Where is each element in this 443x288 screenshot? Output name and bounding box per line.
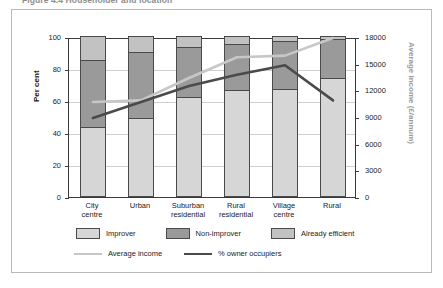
x-axis-label: Rural	[301, 202, 363, 211]
y-axis-right-tick-label: 0	[365, 194, 395, 202]
owner-occupiers-line-swatch	[184, 253, 212, 255]
average-income-line-swatch	[74, 253, 102, 255]
legend-item-label: Improver	[106, 229, 136, 238]
legend-item-label: Already efficient	[301, 229, 354, 238]
figure-caption-strip: Figure 4.4 Householder and location	[0, 0, 443, 7]
legend-item-label: Non-improver	[196, 229, 241, 238]
y-axis-right-tick-label: 9000	[365, 114, 395, 122]
y-axis-left-tick	[65, 198, 69, 199]
legend-row-lines: Average income% owner occupiers	[68, 246, 368, 261]
y-axis-left-tick-label: 0	[35, 194, 61, 202]
y-axis-right-tick-label: 12000	[365, 87, 395, 95]
chart-panel: Per cent Average income (£/annum) 020406…	[11, 9, 432, 273]
y-axis-right-title: Average income (£/annum)	[407, 42, 416, 144]
y-axis-right-tick-label: 15000	[365, 61, 395, 69]
legend-item[interactable]: Non-improver	[166, 228, 241, 239]
legend-item[interactable]: % owner occupiers	[184, 249, 281, 258]
legend-item[interactable]: Already efficient	[271, 228, 354, 239]
y-axis-left-tick-label: 100	[35, 34, 61, 42]
line-series-layer	[69, 38, 357, 198]
legend-row-bars: ImproverNon-improverAlready efficient	[68, 226, 368, 241]
figure-caption: Figure 4.4 Householder and location	[22, 0, 172, 5]
y-axis-left-tick-label: 20	[35, 162, 61, 170]
already-efficient-swatch	[271, 228, 295, 239]
y-axis-left-tick-label: 80	[35, 66, 61, 74]
plot-area: 020406080100 030006000900012000150001800…	[68, 38, 356, 198]
chart-screenshot: Figure 4.4 Householder and location Per …	[0, 0, 443, 288]
legend-item-label: % owner occupiers	[218, 249, 281, 258]
chart-legend: ImproverNon-improverAlready efficient Av…	[68, 226, 368, 261]
y-axis-right-tick-label: 18000	[365, 34, 395, 42]
line-series	[93, 65, 333, 118]
y-axis-left-tick-label: 40	[35, 130, 61, 138]
non-improver-swatch	[166, 228, 190, 239]
line-series	[93, 38, 333, 102]
legend-item[interactable]: Average income	[74, 249, 162, 258]
y-axis-right-tick-label: 6000	[365, 141, 395, 149]
y-axis-left-tick-label: 60	[35, 98, 61, 106]
legend-item[interactable]: Improver	[76, 228, 136, 239]
improver-swatch	[76, 228, 100, 239]
y-axis-right-tick	[355, 198, 359, 199]
y-axis-right-tick-label: 3000	[365, 167, 395, 175]
legend-item-label: Average income	[108, 249, 162, 258]
